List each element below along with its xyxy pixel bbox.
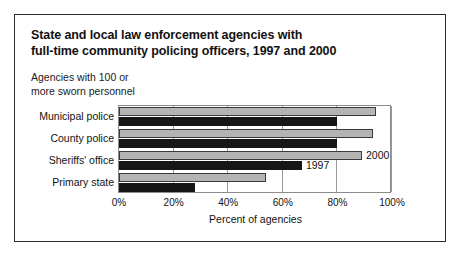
bar-group: Primary state (119, 172, 390, 194)
x-axis-tick-label: 80% (327, 197, 347, 208)
chart-title-line-2: full-time community policing officers, 1… (31, 43, 421, 59)
x-axis-tick-label: 40% (218, 197, 238, 208)
chart-subtitle: Agencies with 100 or more sworn personne… (31, 71, 251, 98)
series-annotation-2000: 2000 (366, 149, 389, 161)
chart-title-line-1: State and local law enforcement agencies… (31, 27, 421, 43)
x-axis-tick-label: 100% (379, 197, 405, 208)
gridline (391, 106, 392, 192)
category-label: Primary state (18, 176, 114, 188)
bar-2000 (119, 107, 376, 116)
x-axis-tick-label: 20% (164, 197, 184, 208)
bar-1997 (119, 161, 302, 170)
chart-subtitle-line-2: more sworn personnel (31, 85, 251, 99)
bar-2000 (119, 129, 373, 138)
bar-group: Sheriffs' office20001997 (119, 150, 390, 172)
x-axis-tick-label: 0% (112, 197, 126, 208)
bar-1997 (119, 139, 337, 148)
x-axis-tick-label: 60% (273, 197, 293, 208)
series-annotation-1997: 1997 (306, 159, 329, 171)
bar-2000 (119, 173, 266, 182)
bar-1997 (119, 117, 337, 126)
chart-figure: State and local law enforcement agencies… (14, 14, 446, 242)
x-axis-title: Percent of agencies (119, 213, 392, 225)
bar-group: Municipal police (119, 106, 390, 128)
category-label: County police (18, 132, 114, 144)
bar-1997 (119, 183, 195, 192)
category-label: Municipal police (18, 110, 114, 122)
category-label: Sheriffs' office (18, 154, 114, 166)
bar-group: County police (119, 128, 390, 150)
chart-title: State and local law enforcement agencies… (31, 27, 421, 59)
chart-subtitle-line-1: Agencies with 100 or (31, 71, 251, 85)
plot-area: Municipal policeCounty policeSheriffs' o… (118, 105, 391, 193)
